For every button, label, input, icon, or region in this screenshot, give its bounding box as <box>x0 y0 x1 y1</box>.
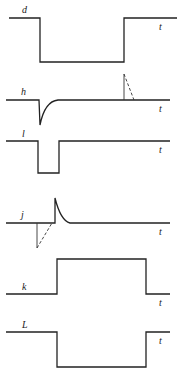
signal-l-label: l <box>22 128 25 139</box>
signal-L: L t <box>6 319 170 367</box>
signal-l: l t <box>6 128 170 173</box>
signal-k-time-axis-label: t <box>159 297 162 308</box>
signal-d-time-axis-label: t <box>159 21 162 32</box>
signal-L-label: L <box>21 319 28 330</box>
signal-h: h t <box>6 74 170 125</box>
signal-k-label: k <box>22 281 27 292</box>
signal-d: d t <box>9 4 177 62</box>
signal-j-label: j <box>19 209 24 220</box>
signal-k: k t <box>6 259 170 308</box>
signal-d-label: d <box>22 4 28 15</box>
signal-j-time-axis-label: t <box>159 226 162 237</box>
signal-h-time-axis-label: t <box>159 103 162 114</box>
signal-j: j t <box>6 198 170 248</box>
waveform-diagram: d t h t l t j t k t L t <box>0 0 177 376</box>
signal-L-time-axis-label: t <box>159 335 162 346</box>
signal-l-time-axis-label: t <box>159 144 162 155</box>
signal-h-label: h <box>21 86 26 97</box>
